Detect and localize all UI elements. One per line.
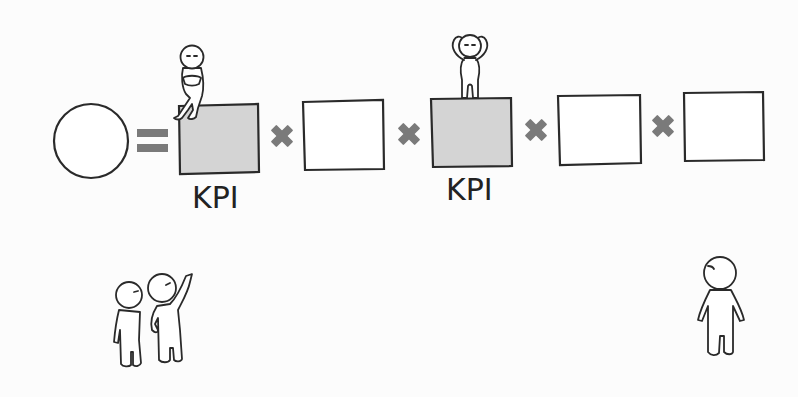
kpi-label-2: KPI: [446, 175, 493, 205]
factor-box-4: [558, 95, 641, 165]
equals-icon: [137, 129, 168, 152]
two-figures-pointing-icon: [114, 274, 192, 366]
factor-box-3-kpi: [431, 98, 512, 167]
lone-figure-icon: [698, 257, 744, 355]
standing-figure-hands-on-head-icon: [453, 35, 488, 98]
multiply-icon: [646, 109, 680, 143]
multiply-icon: [392, 117, 426, 151]
multiply-icon: [265, 119, 299, 153]
multiply-icon: [519, 113, 553, 147]
kpi-label-1: KPI: [192, 183, 239, 213]
kpi-diagram: [0, 0, 798, 397]
factor-box-5: [684, 92, 764, 161]
factor-box-2: [303, 100, 384, 170]
result-circle: [54, 104, 128, 178]
